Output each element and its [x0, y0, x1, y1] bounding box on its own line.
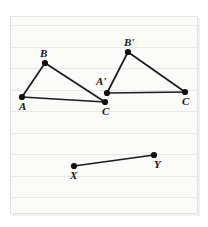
vertex-label-A: A	[19, 101, 26, 112]
vertex-label-Bprime: B'	[124, 37, 134, 48]
segment-A'-C'	[107, 92, 185, 93]
vertex-label-Cprime: C	[182, 96, 189, 107]
vertex-label-C: C	[102, 106, 109, 117]
vertex-label-X: X	[70, 170, 77, 181]
figure-page: ABCA'B'CXY	[0, 0, 208, 227]
segment-X-Y	[74, 155, 154, 166]
segment-A'-B'	[107, 52, 128, 93]
vertex-dot-Bprime	[125, 49, 131, 55]
segment-A-B	[22, 63, 45, 97]
vertex-dot-Aprime	[104, 90, 110, 96]
vertex-dot-B	[42, 60, 48, 66]
segment-A-C	[22, 97, 105, 102]
segment-B'-C'	[128, 52, 185, 92]
vertex-label-Y: Y	[154, 159, 161, 170]
vertex-label-B: B	[40, 48, 47, 59]
vertex-label-Aprime: A'	[96, 76, 106, 87]
